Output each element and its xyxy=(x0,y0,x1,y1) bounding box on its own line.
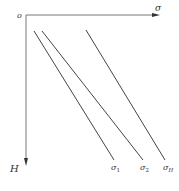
x-axis-label: σ xyxy=(155,3,162,13)
origin-label: o xyxy=(17,11,22,20)
label-sigma-1: σ1 xyxy=(111,163,120,173)
stress-depth-diagram: o σ H σ1 σ2 σH xyxy=(0,0,179,191)
label-sigma-h: σH xyxy=(163,163,173,173)
stress-lines xyxy=(34,30,165,160)
line-sigma-1 xyxy=(34,31,114,160)
x-axis-arrow-icon xyxy=(152,13,160,17)
line-sigma-h xyxy=(86,30,165,160)
y-axis-arrow-icon xyxy=(24,158,28,166)
line-sigma-2 xyxy=(42,31,143,160)
label-sigma-2: σ2 xyxy=(140,163,149,173)
axes xyxy=(24,13,160,166)
y-axis-label: H xyxy=(9,163,19,174)
